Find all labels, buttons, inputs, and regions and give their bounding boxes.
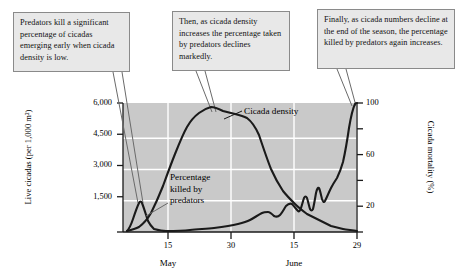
right-axis [357, 103, 363, 232]
month-label-june: June [264, 258, 324, 268]
series-label-mortality-line1: Percentage [170, 172, 210, 184]
series-label-predator-mortality: Percentage killed by predators [170, 172, 210, 207]
left-tick-4500: 4,500 [72, 129, 112, 138]
x-tick-may-30: 30 [211, 241, 251, 250]
x-tick-june-15: 15 [274, 241, 314, 250]
right-tick-20: 20 [366, 201, 406, 210]
plot-background [123, 103, 357, 232]
month-label-may: May [138, 258, 198, 268]
series-label-mortality-line3: predators [170, 195, 210, 207]
x-tick-june-29: 29 [337, 241, 377, 250]
series-label-mortality-line2: killed by [170, 184, 210, 196]
cicada-chart-figure: Predators kill a significant percentage … [0, 0, 463, 279]
right-axis-title: Cicada mortality (%) [426, 82, 436, 232]
left-tick-1500: 1,500 [72, 192, 112, 201]
callout-box-early-mortality: Predators kill a significant percentage … [13, 12, 130, 72]
x-axis [123, 232, 357, 239]
right-tick-60: 60 [366, 150, 406, 159]
series-label-cicada-density: Cicada density [244, 106, 298, 118]
right-tick-100: 100 [366, 98, 406, 107]
callout-box-late-season-mortality: Finally, as cicada numbers decline at th… [317, 9, 455, 69]
left-axis-title: Live cicadas (per 1,000 m²) [23, 82, 33, 232]
callout-box-declining-predation: Then, as cicada density increases the pe… [172, 11, 290, 71]
left-tick-3000: 3,000 [72, 160, 112, 169]
x-tick-may-15: 15 [148, 241, 188, 250]
left-tick-6000: 6,000 [72, 98, 112, 107]
